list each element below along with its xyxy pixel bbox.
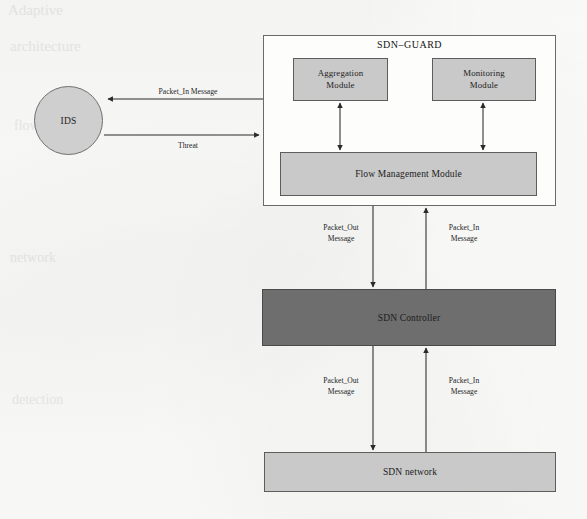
- sdn-controller-label: SDN Controller: [378, 313, 441, 323]
- aggregation-module-label: Aggregation Module: [318, 68, 364, 91]
- edge-label-controller-to-guard: Packet_In Message: [434, 222, 494, 244]
- monitoring-module-label-line2: Module: [470, 80, 498, 90]
- bleed-text-5: detection: [12, 392, 63, 408]
- edge-label-guard-to-ids: Packet_In Message: [118, 86, 258, 97]
- edge-label-guard-to-controller: Packet_Out Message: [311, 222, 371, 244]
- bleed-text-1: Adaptive: [8, 2, 63, 19]
- aggregation-module-label-line1: Aggregation: [318, 68, 364, 78]
- edge-label-controller-to-guard-line1: Packet_In: [449, 223, 479, 232]
- monitoring-module-box: Monitoring Module: [432, 58, 536, 101]
- monitoring-module-label-line1: Monitoring: [463, 68, 505, 78]
- aggregation-module-label-line2: Module: [326, 80, 354, 90]
- sdn-network-box: SDN network: [264, 452, 556, 492]
- edge-label-ids-to-guard: Threat: [118, 140, 258, 151]
- bleed-text-2: architecture: [10, 38, 81, 55]
- diagram-canvas: Adaptive architecture flow network detec…: [0, 0, 587, 519]
- edge-label-network-to-controller-line1: Packet_In: [449, 376, 479, 385]
- edge-label-guard-to-controller-line2: Message: [328, 234, 355, 243]
- edge-label-network-to-controller-line2: Message: [451, 387, 478, 396]
- sdn-controller-box: SDN Controller: [262, 289, 556, 346]
- bleed-text-4: network: [10, 250, 56, 266]
- edge-label-controller-to-network-line1: Packet_Out: [323, 376, 358, 385]
- edge-label-guard-to-controller-line1: Packet_Out: [323, 223, 358, 232]
- edge-label-controller-to-network-line2: Message: [328, 387, 355, 396]
- aggregation-module-box: Aggregation Module: [293, 58, 388, 101]
- ids-label: IDS: [61, 116, 77, 126]
- ids-node: IDS: [34, 86, 103, 155]
- edge-label-network-to-controller: Packet_In Message: [434, 375, 494, 397]
- edge-label-controller-to-guard-line2: Message: [451, 234, 478, 243]
- edge-label-controller-to-network: Packet_Out Message: [311, 375, 371, 397]
- flow-management-module-box: Flow Management Module: [280, 152, 537, 196]
- sdn-guard-title: SDN–GUARD: [263, 39, 556, 50]
- monitoring-module-label: Monitoring Module: [463, 68, 505, 91]
- flow-management-module-label: Flow Management Module: [355, 168, 462, 180]
- sdn-network-label: SDN network: [383, 466, 437, 478]
